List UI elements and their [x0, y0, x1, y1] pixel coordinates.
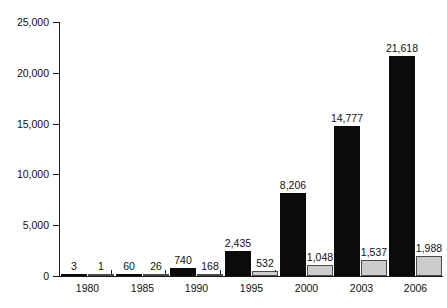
bar-1985-series-dark	[116, 274, 142, 276]
y-axis-tick-label: 10,000	[0, 169, 49, 179]
x-axis-label-2006: 2006	[388, 283, 443, 294]
x-axis-label-1985: 1985	[115, 283, 170, 294]
y-axis-tick-label: 0	[0, 271, 49, 281]
value-label-2006-series-dark: 21,618	[378, 43, 426, 54]
bar-1990-series-light	[197, 274, 223, 276]
value-label-1990-series-light: 168	[186, 261, 234, 272]
y-axis-tick	[53, 174, 60, 175]
bar-2006-series-light	[416, 256, 442, 276]
value-label-2003-series-dark: 14,777	[323, 113, 371, 124]
y-axis-tick-label: 15,000	[0, 119, 49, 129]
y-axis-tick-label: 5,000	[0, 220, 49, 230]
y-axis-tick	[53, 73, 60, 74]
value-label-1995-series-light: 532	[241, 258, 289, 269]
y-axis-tick-label: 25,000	[0, 17, 49, 27]
bar-1995-series-light	[252, 271, 278, 276]
y-axis-tick	[53, 276, 60, 277]
y-axis-tick	[53, 225, 60, 226]
value-label-2003-series-light: 1,537	[350, 247, 398, 258]
x-axis-label-1995: 1995	[224, 283, 279, 294]
x-axis-label-1980: 1980	[60, 283, 115, 294]
x-axis-label-1990: 1990	[169, 283, 224, 294]
value-label-1995-series-dark: 2,435	[214, 238, 262, 249]
bar-1980-series-light	[88, 274, 114, 276]
x-axis-label-2003: 2003	[334, 283, 389, 294]
bar-2003-series-light	[361, 260, 387, 276]
value-label-2000-series-dark: 8,206	[269, 180, 317, 191]
bar-chart: 05,00010,00015,00020,00025,000 198019851…	[0, 0, 447, 308]
value-label-2000-series-light: 1,048	[296, 252, 344, 263]
value-label-2006-series-light: 1,988	[405, 243, 447, 254]
y-axis-line	[59, 22, 60, 277]
bar-1985-series-light	[143, 274, 169, 276]
bar-1980-series-dark	[61, 274, 87, 276]
x-axis-line	[59, 276, 443, 277]
bar-2000-series-light	[307, 265, 333, 276]
y-axis-tick	[53, 124, 60, 125]
x-axis-label-2000: 2000	[279, 283, 334, 294]
y-axis-tick-label: 20,000	[0, 68, 49, 78]
y-axis-tick	[53, 22, 60, 23]
